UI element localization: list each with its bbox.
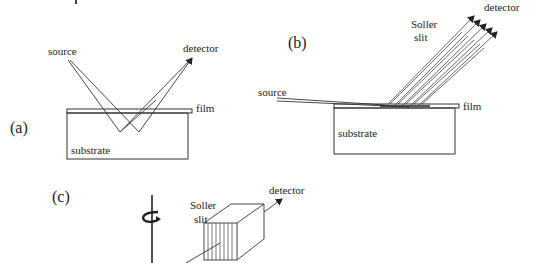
panel-b-soller-label-2: slit bbox=[414, 31, 427, 43]
panel-a: (a) source detector film substrate bbox=[10, 42, 219, 159]
panel-a-film-label: film bbox=[196, 102, 215, 114]
crop-artifact bbox=[75, 0, 77, 4]
panel-a-film-layer bbox=[67, 109, 192, 113]
panel-b: (b) Soller slit detector source film sub… bbox=[258, 1, 520, 154]
panel-b-label: (b) bbox=[288, 34, 307, 52]
panel-c: (c) detector Soller slit bbox=[52, 184, 305, 263]
panel-b-film-label: film bbox=[463, 100, 482, 112]
xrd-geometry-diagram: (a) source detector film substrate (b) S… bbox=[0, 0, 534, 263]
panel-c-detector-label: detector bbox=[269, 184, 305, 196]
panel-c-label: (c) bbox=[52, 188, 70, 206]
rotation-arrowhead-icon bbox=[156, 216, 161, 222]
panel-c-soller-slit-blades bbox=[208, 223, 232, 260]
panel-c-soller-label-1: Soller bbox=[190, 199, 217, 211]
panel-c-beam-out bbox=[264, 199, 282, 212]
panel-a-substrate-label: substrate bbox=[71, 144, 110, 156]
panel-a-detector-label: detector bbox=[183, 42, 219, 54]
panel-a-label: (a) bbox=[10, 119, 28, 137]
panel-b-soller-slit-rays bbox=[386, 16, 497, 106]
panel-b-source-label: source bbox=[258, 86, 287, 98]
panel-b-detector-label: detector bbox=[484, 1, 520, 13]
panel-a-source-label: source bbox=[48, 45, 77, 57]
panel-a-rays bbox=[68, 58, 192, 132]
panel-b-substrate-label: substrate bbox=[338, 127, 377, 139]
panel-b-soller-label-1: Soller bbox=[411, 18, 438, 30]
panel-c-soller-slit-box bbox=[204, 204, 264, 260]
